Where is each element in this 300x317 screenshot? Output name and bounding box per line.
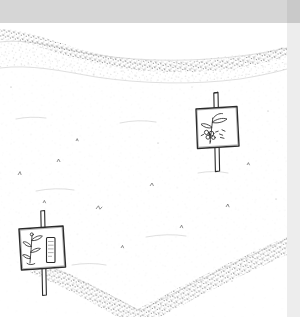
label-tag-icon xyxy=(47,238,56,263)
scan-right-margin xyxy=(287,23,300,317)
scan-header-band xyxy=(0,0,300,23)
scan-header-band-right-corner xyxy=(287,0,300,23)
scanned-page: Field with two botanical specimen signs … xyxy=(0,0,300,317)
sign-board[interactable] xyxy=(196,107,239,149)
sign-board[interactable] xyxy=(19,226,66,270)
illustration-canvas xyxy=(0,23,287,317)
illustration-figure xyxy=(0,23,287,317)
